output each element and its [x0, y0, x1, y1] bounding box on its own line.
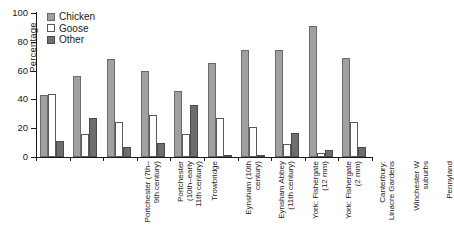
bar-chicken: [241, 50, 249, 157]
x-tick-mark: [238, 157, 239, 161]
bar-other: [89, 118, 97, 157]
x-tick-mark: [338, 157, 339, 161]
legend-swatch-chicken-icon: [47, 13, 55, 21]
bar-group: [174, 13, 198, 157]
x-tick-label: Portchester (7th– 9th century): [143, 161, 161, 245]
bar-other: [291, 133, 299, 157]
y-tick-label: 100: [2, 7, 28, 18]
legend: ChickenGooseOther: [47, 11, 95, 46]
x-tick-label: Winchester W suburbs: [412, 161, 430, 245]
bar-goose: [149, 115, 157, 157]
bar-goose: [48, 94, 56, 157]
legend-item-goose: Goose: [47, 23, 95, 35]
legend-swatch-goose-icon: [47, 24, 55, 32]
bar-group: [208, 13, 232, 157]
x-tick-mark: [36, 157, 37, 161]
x-tick-label: York: Fishergate (2 mm): [344, 161, 362, 245]
bar-chicken: [342, 58, 350, 157]
x-tick-label: Trowbridge: [210, 161, 219, 245]
bar-chicken: [208, 63, 216, 157]
bar-goose: [249, 127, 257, 157]
x-tick-mark: [137, 157, 138, 161]
y-tick-label: 80: [2, 36, 28, 47]
y-tick-mark: [31, 13, 36, 14]
legend-label: Goose: [59, 23, 88, 35]
x-tick-mark: [204, 157, 205, 161]
x-tick-label: York: Fishergate (12 mm): [311, 161, 329, 245]
x-tick-mark: [372, 157, 373, 161]
bar-chicken: [107, 59, 115, 157]
bar-other: [190, 105, 198, 157]
bar-chicken: [174, 91, 182, 157]
bar-goose: [350, 122, 358, 157]
bar-chicken: [141, 71, 149, 157]
y-axis-line: [36, 12, 37, 158]
bar-group: [275, 13, 299, 157]
bar-chicken: [309, 26, 317, 157]
bar-other: [257, 155, 265, 157]
y-tick-mark: [31, 42, 36, 43]
bar-group: [141, 13, 165, 157]
x-tick-mark: [305, 157, 306, 161]
bar-goose: [81, 134, 89, 157]
bar-group: [309, 13, 333, 157]
x-tick-mark: [170, 157, 171, 161]
bar-goose: [283, 144, 291, 157]
x-tick-label: Eynsham Abbey (11th century): [277, 161, 295, 245]
legend-label: Chicken: [59, 11, 95, 23]
bar-chicken: [275, 50, 283, 157]
y-tick-mark: [31, 128, 36, 129]
y-tick-mark: [31, 71, 36, 72]
bar-goose: [182, 134, 190, 157]
bar-goose: [115, 122, 123, 157]
bar-other: [157, 143, 165, 157]
bar-other: [56, 141, 64, 157]
legend-swatch-other-icon: [47, 36, 55, 44]
x-tick-label: Eynsham (10th century): [244, 161, 262, 245]
bar-goose: [317, 153, 325, 157]
y-tick-label: 40: [2, 93, 28, 104]
y-tick-label: 20: [2, 122, 28, 133]
bar-other: [224, 155, 232, 157]
bar-chicken: [73, 76, 81, 157]
legend-item-other: Other: [47, 34, 95, 46]
y-tick-label: 0: [2, 151, 28, 162]
x-tick-mark: [271, 157, 272, 161]
bar-goose: [216, 118, 224, 157]
x-tick-mark: [70, 157, 71, 161]
y-tick-label: 60: [2, 65, 28, 76]
bar-chicken: [40, 95, 48, 157]
bar-group: [342, 13, 366, 157]
bar-other: [123, 147, 131, 157]
y-tick-mark: [31, 99, 36, 100]
x-tick-label: Pennyland: [445, 161, 454, 245]
x-tick-mark: [103, 157, 104, 161]
legend-label: Other: [59, 34, 84, 46]
bar-group: [241, 13, 265, 157]
legend-item-chicken: Chicken: [47, 11, 95, 23]
x-tick-label: Canterbury: Linacre Gardens: [378, 161, 396, 245]
bar-other: [358, 147, 366, 157]
bar-other: [325, 150, 333, 157]
x-tick-label: Portchester (10th–early 11th century): [176, 161, 203, 245]
bar-group: [107, 13, 131, 157]
